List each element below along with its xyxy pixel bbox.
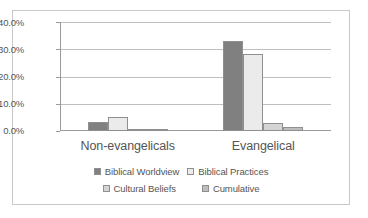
bar <box>108 117 128 131</box>
legend-label: Biblical Practices <box>198 166 268 177</box>
y-axis-tick <box>56 49 60 50</box>
x-axis-category-label: Evangelical <box>196 139 332 153</box>
legend-label: Cultural Beliefs <box>114 183 176 194</box>
y-axis-tick <box>56 104 60 105</box>
legend-swatch-icon <box>187 168 194 175</box>
legend-swatch-icon <box>103 185 110 192</box>
legend-swatch-icon <box>94 168 101 175</box>
legend-item[interactable]: Cumulative <box>202 183 260 194</box>
legend-row: Cultural BeliefsCumulative <box>13 180 349 197</box>
x-axis-category-label: Non-evangelicals <box>60 139 196 153</box>
legend-item[interactable]: Cultural Beliefs <box>103 183 176 194</box>
y-axis-tick <box>56 77 60 78</box>
y-axis-tick-label: 10.0% <box>0 98 24 109</box>
legend-item[interactable]: Biblical Worldview <box>94 166 180 177</box>
y-axis-line <box>60 22 61 131</box>
chart-container: 40.0% 30.0% 20.0% 10.0% 0.0% Non-evangel… <box>12 10 350 205</box>
legend-label: Biblical Worldview <box>105 166 180 177</box>
bar-group <box>223 22 303 131</box>
y-axis-tick-label: 40.0% <box>0 17 24 28</box>
y-axis-tick <box>56 131 60 132</box>
plot-area <box>60 22 331 131</box>
chart-legend: Biblical WorldviewBiblical PracticesCult… <box>13 163 349 197</box>
bar <box>263 123 283 131</box>
legend-item[interactable]: Biblical Practices <box>187 166 268 177</box>
y-axis-tick <box>56 22 60 23</box>
y-axis-tick-label: 0.0% <box>0 125 24 136</box>
bar <box>283 127 303 131</box>
bar-group <box>88 22 168 131</box>
legend-row: Biblical WorldviewBiblical Practices <box>13 163 349 180</box>
legend-swatch-icon <box>202 185 209 192</box>
bar <box>128 129 148 131</box>
legend-label: Cumulative <box>213 183 260 194</box>
y-axis-tick-label: 30.0% <box>0 44 24 55</box>
bar <box>88 122 108 131</box>
bar <box>148 129 168 131</box>
bar <box>223 41 243 131</box>
bar <box>243 54 263 131</box>
y-axis-tick-label: 20.0% <box>0 71 24 82</box>
